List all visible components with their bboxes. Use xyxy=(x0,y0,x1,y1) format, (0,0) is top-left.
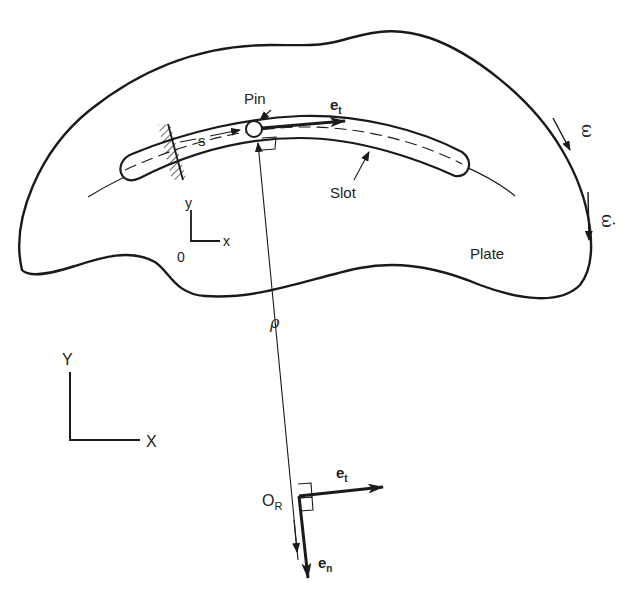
plate-outline xyxy=(19,31,591,298)
angular-acceleration-arrow xyxy=(588,192,589,240)
center-of-curvature-label: OR xyxy=(262,492,282,512)
normal-vector-at-origin xyxy=(299,496,308,578)
pin-label: Pin xyxy=(244,90,266,107)
center-of-curvature-frame: et en OR xyxy=(262,464,383,578)
radius-of-curvature-label: ρ xyxy=(269,313,280,332)
local-y-label: y xyxy=(185,195,192,211)
radius-of-curvature-line-lower-arrow xyxy=(294,520,297,552)
local-x-label: x xyxy=(223,233,230,249)
local-axes: y x 0 xyxy=(177,195,230,265)
arc-length-label: s xyxy=(198,132,206,149)
tangent-unit-label-origin: et xyxy=(336,464,348,484)
slotted-plate-diagram: s Pin et Slot Plate ω ω̇ y x 0 ρ Y X e xyxy=(0,0,638,597)
plate-label: Plate xyxy=(470,245,504,262)
angular-velocity-arrow xyxy=(553,118,570,150)
global-y-label: Y xyxy=(62,351,73,368)
angular-velocity-label: ω xyxy=(578,124,598,138)
angular-acceleration-label: ω̇ xyxy=(598,214,618,228)
local-origin-label: 0 xyxy=(177,249,185,265)
global-x-label: X xyxy=(146,433,157,450)
slot-pointer-arrow xyxy=(354,152,369,180)
slot-label: Slot xyxy=(330,184,357,201)
global-axes: Y X xyxy=(62,351,157,450)
normal-unit-label: en xyxy=(318,554,332,574)
pin xyxy=(246,121,262,137)
tangent-unit-label-top: et xyxy=(330,96,342,116)
